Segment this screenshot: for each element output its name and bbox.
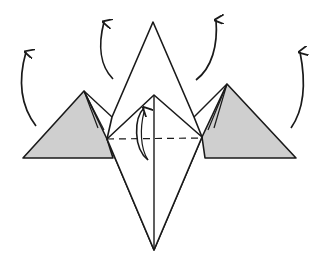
lift-arrow-far-right-icon: [291, 52, 303, 128]
lift-arrow-right-icon: [196, 20, 216, 80]
lift-arrow-far-left-icon: [21, 52, 36, 126]
center-kite: [107, 22, 202, 250]
origami-diagram: [0, 0, 318, 263]
left-flap: [23, 91, 113, 158]
lift-arrow-left-icon: [101, 22, 113, 79]
right-flap: [194, 84, 296, 158]
